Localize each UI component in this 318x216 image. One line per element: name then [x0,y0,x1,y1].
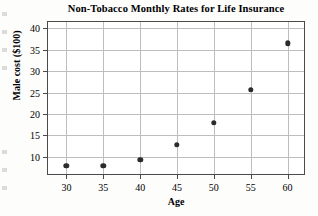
plot-area: 10152025303540 30354045505560 [47,21,305,175]
gridline-vertical [66,22,67,174]
y-tick-label: 25 [30,87,40,98]
y-tick-label: 30 [30,66,40,77]
y-tick [43,28,48,29]
gridlines [48,22,304,174]
x-tick [288,174,289,179]
gridline-horizontal [48,71,304,72]
x-tick [140,174,141,179]
x-tick [251,174,252,179]
x-tick-label: 55 [246,182,256,193]
y-axis-label: Male cost ($100) [11,11,22,121]
y-tick-label: 40 [30,23,40,34]
y-tick [43,114,48,115]
gridline-horizontal [48,93,304,94]
y-tick-label: 10 [30,151,40,162]
x-tick-label: 40 [135,182,145,193]
gridline-horizontal [48,50,304,51]
gridline-vertical [103,22,104,174]
y-tick [43,135,48,136]
gridline-vertical [251,22,252,174]
x-tick [66,174,67,179]
x-tick-label: 60 [283,182,293,193]
gridline-vertical [140,22,141,174]
y-tick [43,93,48,94]
x-tick [214,174,215,179]
x-tick-label: 45 [172,182,182,193]
gridline-horizontal [48,28,304,29]
gridline-horizontal [48,135,304,136]
x-tick-label: 35 [98,182,108,193]
gridline-horizontal [48,114,304,115]
x-tick [177,174,178,179]
y-tick-label: 20 [30,108,40,119]
y-tick-label: 15 [30,130,40,141]
scan-edge-artifacts [0,0,10,216]
y-tick [43,157,48,158]
x-tick [103,174,104,179]
x-tick-label: 30 [61,182,71,193]
gridline-vertical [177,22,178,174]
x-axis-label: Age [47,196,305,207]
gridline-vertical [214,22,215,174]
y-tick [43,71,48,72]
gridline-horizontal [48,157,304,158]
y-tick [43,50,48,51]
x-tick-label: 50 [209,182,219,193]
y-tick-label: 35 [30,44,40,55]
chart-title: Non-Tobacco Monthly Rates for Life Insur… [47,2,305,16]
